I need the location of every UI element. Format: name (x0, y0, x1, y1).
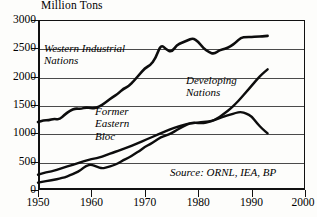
y-tick-label-3000: 3000 (2, 14, 36, 25)
y-tick-label-500: 500 (2, 156, 36, 167)
x-tick-label-2000: 2000 (283, 196, 317, 208)
y-tick-label-1500: 1500 (2, 99, 36, 110)
y-tick-label-2000: 2000 (2, 71, 36, 82)
y-tick-label-2500: 2500 (2, 42, 36, 53)
gridline-1000 (40, 134, 304, 135)
gridline-500 (40, 163, 304, 164)
x-tick-label-1990: 1990 (232, 196, 272, 208)
x-tick-label-1980: 1980 (178, 196, 218, 208)
gridline-1500 (40, 106, 304, 107)
gridline-2000 (40, 78, 304, 79)
x-tick-label-1960: 1960 (71, 196, 111, 208)
series-label-western-industrial-nations: Western Industrial Nations (44, 42, 125, 67)
y-axis-unit-caption: Million Tons (41, 0, 103, 11)
y-tick-label-1000: 1000 (2, 127, 36, 138)
y-tick-label-0: 0 (2, 184, 36, 195)
x-tick-label-1970: 1970 (125, 196, 165, 208)
series-label-former-eastern-bloc: Former Eastern Bloc (95, 105, 129, 142)
source-attribution: Source: ORNL, IEA, BP (170, 166, 276, 178)
series-label-developing-nations: Developing Nations (186, 74, 237, 99)
x-tick-label-1950: 1950 (18, 196, 58, 208)
emissions-line-chart: Million Tons 3000 2500 2000 1500 1000 50… (0, 0, 317, 217)
